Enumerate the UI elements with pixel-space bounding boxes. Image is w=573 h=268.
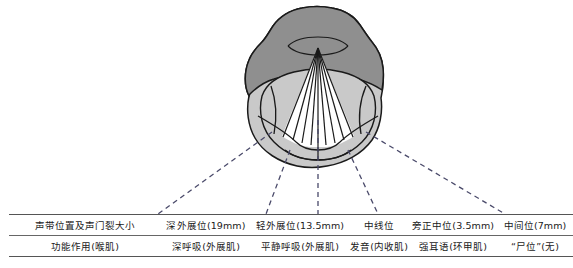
- cell-function-deep-breathing: 深呼吸(外展肌): [161, 236, 251, 257]
- vocal-cord-legend-table: 声带位置及声门裂大小 深外展位(19mm) 轻外展位(13.5mm) 中线位 旁…: [9, 214, 573, 257]
- leader-line-deep-abduction: [158, 132, 272, 214]
- leader-line-intermediate: [366, 132, 505, 214]
- cell-position-paramedian: 旁正中位(3.5mm): [409, 215, 497, 236]
- cell-position-intermediate: 中间位(7mm): [497, 215, 573, 236]
- table-row: 声带位置及声门裂大小 深外展位(19mm) 轻外展位(13.5mm) 中线位 旁…: [9, 215, 573, 236]
- cell-function-quiet-breathing: 平静呼吸(外展肌): [251, 236, 349, 257]
- leader-line-paramedian: [348, 150, 378, 214]
- row-label-vocal-cord-position: 声带位置及声门裂大小: [9, 215, 161, 236]
- larynx-outline-group: [245, 7, 383, 168]
- cell-position-midline: 中线位: [349, 215, 409, 236]
- cell-function-strong-whisper: 强耳语(环甲肌): [409, 236, 497, 257]
- cell-position-light-abduction: 轻外展位(13.5mm): [251, 215, 349, 236]
- cell-position-deep-abduction: 深外展位(19mm): [161, 215, 251, 236]
- row-label-function: 功能作用(喉肌): [9, 236, 161, 257]
- cell-function-cadaveric: “尸位”(无): [497, 236, 573, 257]
- cell-function-phonation: 发音(内收肌): [349, 236, 409, 257]
- legend-table-wrapper: 声带位置及声门裂大小 深外展位(19mm) 轻外展位(13.5mm) 中线位 旁…: [0, 214, 570, 262]
- table-row: 功能作用(喉肌) 深呼吸(外展肌) 平静呼吸(外展肌) 发音(内收肌) 强耳语(…: [9, 236, 573, 257]
